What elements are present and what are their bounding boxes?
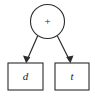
- edge-line-left: [27, 36, 38, 61]
- root-node-label: +: [44, 15, 50, 27]
- leaf-node-right: t: [55, 63, 89, 90]
- expression-tree-diagram: + d t: [0, 0, 95, 98]
- leaf-node-left-label: d: [23, 70, 29, 82]
- edge-root-to-left-leaf: [23, 36, 38, 63]
- root-node-operator: +: [31, 5, 65, 39]
- diagram-svg-canvas: + d t: [0, 0, 95, 98]
- leaf-node-left: d: [8, 63, 43, 90]
- edge-root-to-right-leaf: [57, 36, 73, 63]
- arrow-head-left-icon: [23, 56, 30, 64]
